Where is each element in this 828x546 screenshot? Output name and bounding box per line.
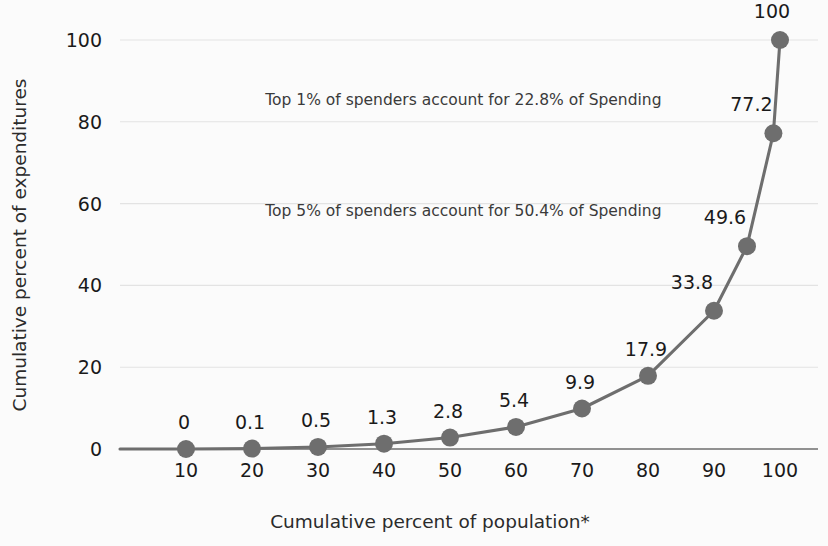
point-label-40: 1.3 xyxy=(367,406,397,428)
point-label-100: 100 xyxy=(754,0,790,22)
point-label-30: 0.5 xyxy=(301,409,331,431)
y-axis-title: Cumulative percent of expenditures xyxy=(9,79,30,412)
point-label-20: 0.1 xyxy=(235,411,265,433)
y-axis-tick-labels: 020406080100 xyxy=(66,29,102,460)
y-tick-label-80: 80 xyxy=(78,111,102,133)
x-tick-label-70: 70 xyxy=(570,459,594,481)
x-tick-label-40: 40 xyxy=(372,459,396,481)
y-tick-label-0: 0 xyxy=(90,438,102,460)
point-label-50: 2.8 xyxy=(433,400,463,422)
data-point-70 xyxy=(573,400,591,418)
y-tick-label-60: 60 xyxy=(78,193,102,215)
chart-annotations: Top 1% of spenders account for 22.8% of … xyxy=(264,91,661,219)
x-tick-label-50: 50 xyxy=(438,459,462,481)
point-label-10: 0 xyxy=(178,411,190,433)
point-label-95: 49.6 xyxy=(704,206,746,228)
data-point-99 xyxy=(764,124,782,142)
point-label-99: 77.2 xyxy=(730,93,772,115)
point-label-70: 9.9 xyxy=(565,371,595,393)
annotation-1: Top 1% of spenders account for 22.8% of … xyxy=(264,91,661,109)
data-point-40 xyxy=(375,435,393,453)
x-tick-label-60: 60 xyxy=(504,459,528,481)
point-label-60: 5.4 xyxy=(499,389,529,411)
data-point-30 xyxy=(309,438,327,456)
data-point-20 xyxy=(243,440,261,458)
data-point-80 xyxy=(639,367,657,385)
point-label-90: 33.8 xyxy=(671,271,713,293)
data-point-100 xyxy=(771,31,789,49)
y-tick-label-100: 100 xyxy=(66,29,102,51)
lorenz-curve-chart: 020406080100 102030405060708090100 00.10… xyxy=(0,0,828,546)
data-point-10 xyxy=(177,440,195,458)
x-tick-label-80: 80 xyxy=(636,459,660,481)
y-tick-label-20: 20 xyxy=(78,356,102,378)
data-point-90 xyxy=(705,302,723,320)
x-tick-label-20: 20 xyxy=(240,459,264,481)
data-point-50 xyxy=(441,429,459,447)
annotation-2: Top 5% of spenders account for 50.4% of … xyxy=(264,202,661,220)
y-tick-label-40: 40 xyxy=(78,274,102,296)
data-point-60 xyxy=(507,418,525,436)
x-tick-label-100: 100 xyxy=(762,459,798,481)
x-axis-tick-labels: 102030405060708090100 xyxy=(174,459,798,481)
x-tick-label-90: 90 xyxy=(702,459,726,481)
chart-page: 020406080100 102030405060708090100 00.10… xyxy=(0,0,828,546)
x-axis-title: Cumulative percent of population* xyxy=(270,511,590,532)
x-tick-label-10: 10 xyxy=(174,459,198,481)
data-point-95 xyxy=(738,237,756,255)
point-label-80: 17.9 xyxy=(625,338,667,360)
x-tick-label-30: 30 xyxy=(306,459,330,481)
